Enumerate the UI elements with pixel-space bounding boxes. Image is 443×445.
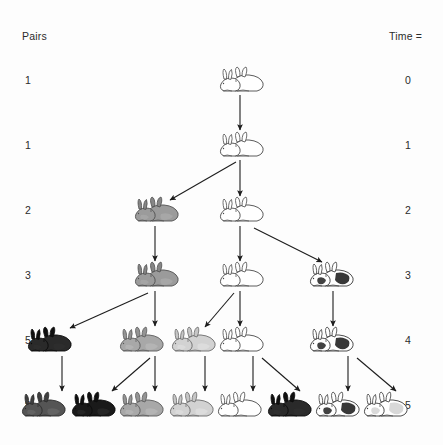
arrow-diagonal-offspring-5 [254, 228, 322, 262]
rabbit-pair-white-r3-5 [213, 260, 267, 290]
rabbit-pair-midgray-r5-14 [113, 390, 167, 420]
rabbit-pair-gray-r2-2 [128, 195, 182, 225]
figure-canvas: Pairs Time = 112358 012345 [0, 0, 443, 445]
arrow-diagonal-offspring-13 [112, 358, 150, 391]
rabbit-pair-white-r2-3 [213, 195, 267, 225]
rabbit-pair-white-r5-16 [211, 390, 265, 420]
rabbit-pair-white-r4-10 [213, 325, 267, 355]
rabbit-pair-lightgray-r4-9 [165, 325, 219, 355]
rabbit-pair-spotted2-r5-19 [357, 390, 411, 420]
time-value-row-1: 1 [405, 139, 411, 151]
pairs-value-row-3: 3 [25, 269, 31, 281]
pairs-value-row-2: 2 [25, 204, 31, 216]
arrow-diagonal-offspring-9 [205, 293, 234, 327]
rabbit-pair-lightgray-r5-15 [163, 390, 217, 420]
time-value-row-0: 0 [405, 74, 411, 86]
arrow-diagonal-offspring-16 [262, 358, 300, 391]
rabbit-pair-white-r1-1 [213, 130, 267, 160]
time-value-row-4: 4 [405, 334, 411, 346]
pairs-value-row-0: 1 [25, 74, 31, 86]
rabbit-pair-black-r5-17 [261, 390, 315, 420]
rabbit-pair-darkgray-r5-12 [15, 390, 69, 420]
rabbit-pair-black-r4-7 [21, 325, 75, 355]
time-value-row-3: 3 [405, 269, 411, 281]
rabbit-pair-gray-r3-4 [128, 260, 182, 290]
arrow-diagonal-offspring-7 [70, 293, 148, 328]
rabbit-pair-white-r0-0 [213, 65, 267, 95]
time-column-header: Time = [389, 30, 422, 42]
time-value-row-2: 2 [405, 204, 411, 216]
rabbit-pair-black-r5-13 [65, 390, 119, 420]
pairs-value-row-1: 1 [25, 139, 31, 151]
arrow-diagonal-offspring-18 [357, 358, 396, 391]
rabbit-pair-spotted-r5-18 [309, 390, 363, 420]
rabbit-pair-spotted-r4-11 [303, 325, 357, 355]
rabbit-pair-midgray-r4-8 [113, 325, 167, 355]
pairs-column-header: Pairs [22, 30, 47, 42]
rabbit-pair-spotted-r3-6 [303, 260, 357, 290]
